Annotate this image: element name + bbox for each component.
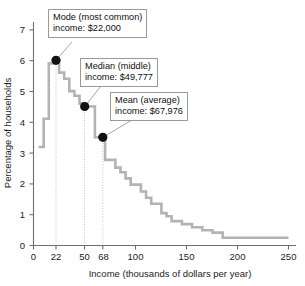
callout-median-line2: income: $49,777 <box>85 72 153 83</box>
x-tick-label-250: 250 <box>281 251 297 262</box>
callout-mean-line1: Mean (average) <box>115 95 183 106</box>
x-axis-title: Income (thousands of dollars per year) <box>89 268 252 279</box>
chart-plot-area: 0 1 2 3 4 5 6 7 0 22 50 68 100 150 200 2… <box>0 0 305 286</box>
y-tick-label-4: 4 <box>20 117 25 128</box>
callout-mode: Mode (most common) income: $22,000 <box>48 9 147 38</box>
x-tick-label-200: 200 <box>230 251 246 262</box>
leader-line-mean <box>103 120 132 137</box>
y-axis-ticks <box>30 30 34 246</box>
callout-median: Median (middle) income: $49,777 <box>80 58 158 87</box>
x-tick-label-68: 68 <box>98 251 109 262</box>
x-tick-label-50: 50 <box>79 251 90 262</box>
x-tick-labels: 0 22 50 68 100 150 200 250 <box>31 251 297 262</box>
callout-median-line1: Median (middle) <box>85 61 153 72</box>
callout-mean-line2: income: $67,976 <box>115 106 183 117</box>
x-tick-label-150: 150 <box>179 251 195 262</box>
y-axis-title: Percentage of households <box>2 78 13 189</box>
x-tick-label-0: 0 <box>31 251 36 262</box>
callout-mean: Mean (average) income: $67,976 <box>110 92 188 121</box>
x-tick-label-100: 100 <box>128 251 144 262</box>
dot-mean <box>98 133 107 142</box>
y-tick-label-0: 0 <box>20 240 25 251</box>
dot-mode <box>51 56 60 65</box>
y-tick-label-6: 6 <box>20 55 25 66</box>
y-tick-label-7: 7 <box>20 24 25 35</box>
x-tick-label-22: 22 <box>51 251 62 262</box>
dot-median <box>80 102 89 111</box>
income-distribution-chart: 0 1 2 3 4 5 6 7 0 22 50 68 100 150 200 2… <box>0 0 305 286</box>
y-tick-label-1: 1 <box>20 209 25 220</box>
marker-guide-lines <box>56 61 103 245</box>
x-axis-ticks <box>34 246 289 250</box>
y-tick-label-5: 5 <box>20 86 25 97</box>
histogram-step-curve <box>39 60 289 238</box>
y-tick-label-3: 3 <box>20 148 25 159</box>
callout-mode-line1: Mode (most common) <box>53 12 142 23</box>
callout-mode-line2: income: $22,000 <box>53 23 142 34</box>
y-tick-labels: 0 1 2 3 4 5 6 7 <box>20 24 25 251</box>
y-tick-label-2: 2 <box>20 178 25 189</box>
